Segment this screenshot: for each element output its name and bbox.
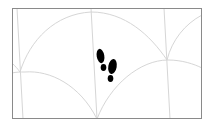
footprints-icon bbox=[96, 48, 118, 82]
arc-upper-right bbox=[167, 15, 202, 60]
vertical-line-left bbox=[17, 8, 23, 119]
arc-lower-left bbox=[12, 72, 97, 119]
frame-border bbox=[13, 9, 202, 119]
illustration-canvas bbox=[0, 0, 210, 127]
arc-left-small bbox=[12, 63, 20, 72]
vertical-line-center bbox=[91, 8, 97, 119]
tile-pattern bbox=[0, 0, 210, 127]
vertical-line-right bbox=[164, 8, 170, 119]
pattern-lines bbox=[12, 8, 202, 119]
